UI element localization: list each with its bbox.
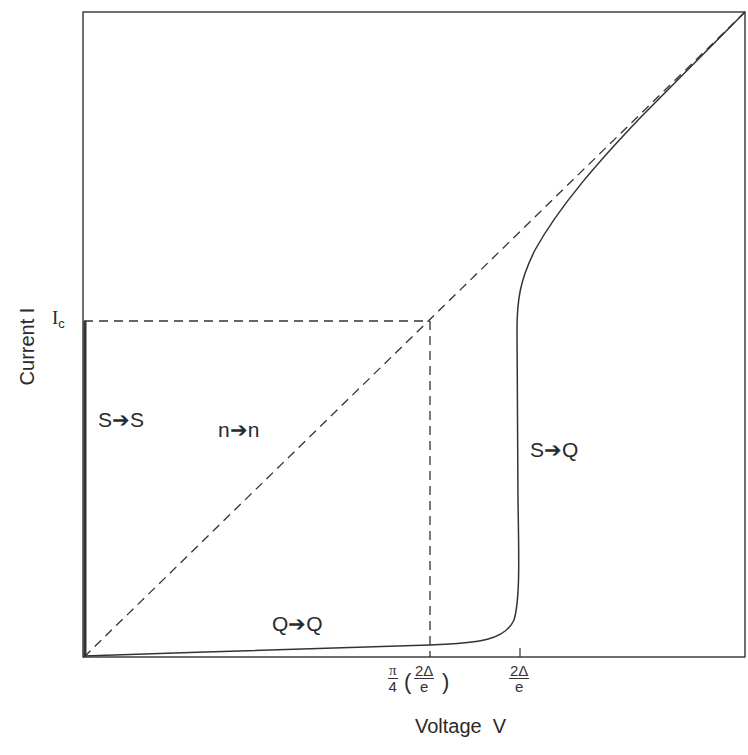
e-symbol: e bbox=[515, 679, 523, 694]
two-delta: 2Δ bbox=[414, 663, 434, 679]
x-tick-gap-label: 2Δ e bbox=[509, 663, 529, 694]
two-delta-over-e-inner: 2Δ e bbox=[414, 663, 434, 694]
two-delta: 2Δ bbox=[509, 663, 529, 679]
annotation-s-to-q: S➔Q bbox=[530, 438, 578, 462]
open-paren: ( bbox=[404, 669, 411, 695]
e-symbol: e bbox=[420, 679, 428, 694]
annotation-q-to-q: Q➔Q bbox=[272, 612, 323, 636]
chart-canvas bbox=[0, 0, 748, 755]
ic-subscript: c bbox=[58, 316, 65, 331]
pi-symbol: π bbox=[388, 663, 398, 679]
close-paren: ) bbox=[442, 669, 449, 695]
annotation-s-to-s: S➔S bbox=[98, 408, 144, 432]
pi-over-4: π 4 bbox=[388, 663, 398, 694]
ic-tick-label: Ic bbox=[52, 307, 65, 331]
y-axis-label: Current I bbox=[16, 292, 39, 402]
four: 4 bbox=[389, 679, 397, 694]
ohmic-line bbox=[84, 12, 745, 657]
annotation-n-to-n: n➔n bbox=[218, 418, 259, 442]
x-tick-pi4-label: π 4 ( 2Δ e ) bbox=[388, 663, 468, 703]
x-axis-label: Voltage V bbox=[415, 715, 506, 738]
